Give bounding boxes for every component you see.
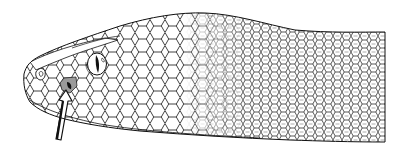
snake-head-drawing	[0, 0, 408, 152]
illustration: Line drawing of a pit viper head in left…	[0, 0, 408, 152]
